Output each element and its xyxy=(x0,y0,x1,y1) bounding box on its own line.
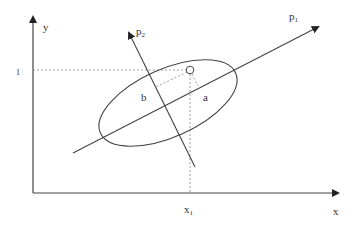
x-axis-label: x xyxy=(333,205,339,217)
p1-label-sub: 1 xyxy=(295,16,299,24)
x1-tick-sub: 1 xyxy=(190,209,194,217)
distance-b-label: b xyxy=(141,91,147,103)
p2-label: p2 xyxy=(136,25,146,39)
pca-diagram: y 1 p2 p1 b a x1 x xyxy=(0,0,355,226)
p2-label-sub: 2 xyxy=(142,31,146,39)
data-ellipse xyxy=(87,42,250,164)
y-axis-label: y xyxy=(43,21,49,33)
p1-label: p1 xyxy=(289,10,299,24)
x1-tick-label: x1 xyxy=(184,203,194,217)
y1-tick-label: 1 xyxy=(16,68,20,77)
p1-axis xyxy=(73,27,318,153)
distance-a-label: a xyxy=(203,91,208,103)
p2-axis xyxy=(129,33,195,167)
distance-a-guide xyxy=(192,74,198,86)
data-point xyxy=(186,66,194,74)
coordinate-axes xyxy=(33,17,338,193)
distance-b-guide xyxy=(156,72,187,87)
